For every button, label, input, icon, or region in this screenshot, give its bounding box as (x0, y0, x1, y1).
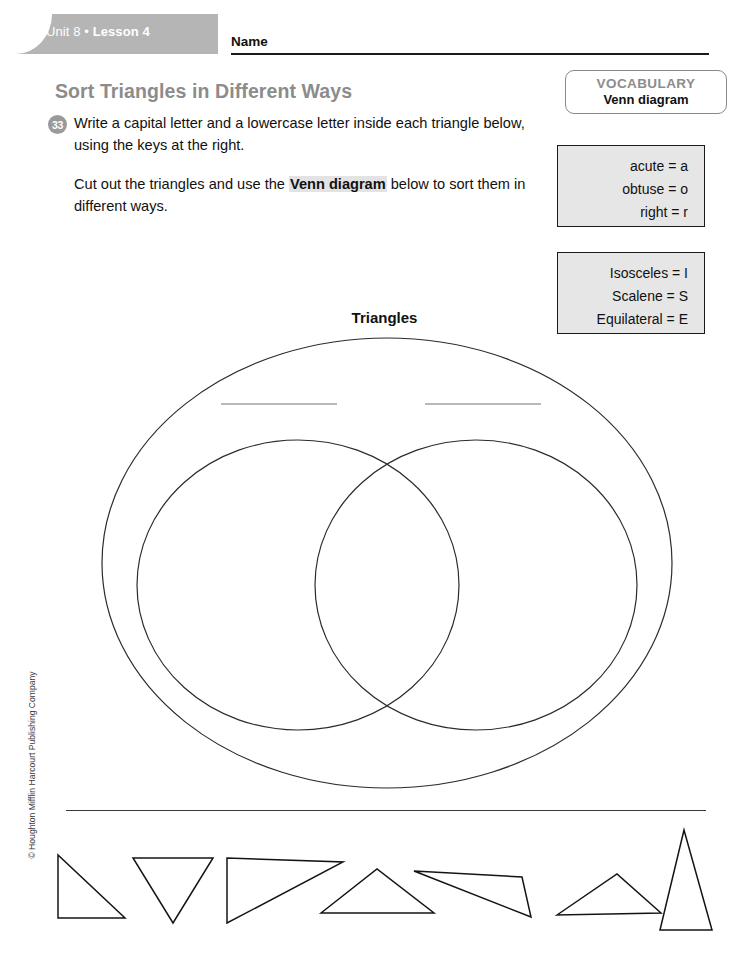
triangle-cutout[interactable] (414, 871, 531, 917)
angle-key-line: acute = a (568, 155, 688, 178)
venn-diagram-term: Venn diagram (289, 176, 387, 192)
triangle-cutout[interactable] (133, 858, 213, 923)
instruction-2-part-a: Cut out the triangles and use the (74, 176, 289, 192)
venn-left-oval (137, 440, 459, 730)
venn-outer-oval (102, 338, 672, 788)
lesson-label: Lesson 4 (93, 24, 150, 39)
triangle-cutouts (0, 818, 749, 958)
problem-instruction-2: Cut out the triangles and use the Venn d… (74, 174, 544, 217)
unit-lesson-tab: Unit 8 • Lesson 4 (0, 14, 218, 54)
triangle-cutout[interactable] (557, 874, 661, 915)
tab-separator: • (84, 24, 89, 39)
venn-diagram (92, 328, 692, 808)
venn-left-label-blank[interactable] (221, 403, 337, 405)
name-write-line[interactable] (231, 53, 709, 55)
name-label: Name (231, 34, 711, 49)
vocabulary-box: VOCABULARY Venn diagram (565, 70, 727, 114)
cut-line-divider (66, 810, 706, 811)
venn-right-oval (315, 440, 637, 730)
venn-title: Triangles (0, 309, 749, 326)
venn-title-text: Triangles (352, 309, 418, 326)
problem-number-badge: 33 (48, 115, 67, 134)
venn-right-label-blank[interactable] (425, 403, 541, 405)
page-title: Sort Triangles in Different Ways (55, 80, 352, 103)
vocabulary-heading: VOCABULARY (597, 76, 696, 92)
triangle-cutout[interactable] (321, 869, 434, 913)
side-key-line: Scalene = S (568, 285, 688, 308)
copyright-notice: © Houghton Mifflin Harcourt Publishing C… (27, 645, 37, 885)
angle-key-line: obtuse = o (568, 178, 688, 201)
unit-label: Unit 8 (46, 24, 81, 39)
worksheet-page: Unit 8 • Lesson 4 Name Sort Triangles in… (0, 0, 749, 976)
angle-key-box: acute = a obtuse = o right = r (557, 145, 705, 227)
triangle-cutout[interactable] (660, 830, 712, 930)
tab-label: Unit 8 • Lesson 4 (46, 24, 150, 39)
angle-key-line: right = r (568, 201, 688, 224)
problem-instruction-1: Write a capital letter and a lowercase l… (74, 113, 544, 156)
name-field-block: Name (231, 34, 711, 49)
triangle-cutout[interactable] (58, 855, 125, 918)
side-key-line: Isosceles = I (568, 262, 688, 285)
vocabulary-term: Venn diagram (603, 92, 688, 108)
